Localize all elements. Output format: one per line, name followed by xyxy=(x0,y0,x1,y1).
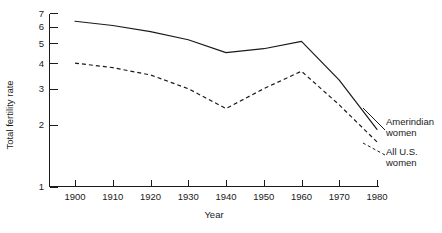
x-tick-label: 1950 xyxy=(253,191,274,202)
x-tick-label: 1920 xyxy=(140,191,161,202)
y-tick-label: 6 xyxy=(39,21,44,32)
y-tick-label: 1 xyxy=(39,181,44,192)
chart-figure: 1234567 19001910192019301940195019601970… xyxy=(0,0,442,233)
annotation-label-all-us-line2: women xyxy=(385,157,417,168)
series-line-all-us-women xyxy=(75,63,377,142)
y-tick-label: 2 xyxy=(39,119,44,130)
series-line-amerindian-women xyxy=(75,21,377,129)
x-tick-label: 1970 xyxy=(329,191,350,202)
x-tick-label: 1980 xyxy=(366,191,387,202)
annotation-label-amerindian-line1: Amerindian xyxy=(386,116,434,127)
y-tick-label: 7 xyxy=(39,8,44,19)
y-axis-tick-labels: 1234567 xyxy=(39,8,44,192)
annotation-leader-amerindian xyxy=(363,108,385,130)
x-tick-label: 1940 xyxy=(215,191,236,202)
annotation-label-all-us-line1: All U.S. xyxy=(386,146,418,157)
y-tick-label: 5 xyxy=(39,38,44,49)
y-tick-label: 4 xyxy=(39,58,44,69)
annotation-label-amerindian-line2: women xyxy=(385,127,417,138)
x-tick-label: 1960 xyxy=(291,191,312,202)
x-tick-label: 1910 xyxy=(102,191,123,202)
annotation-leader-all-us xyxy=(363,143,385,155)
y-axis-title: Total fertility rate xyxy=(4,80,15,149)
x-axis-ticks xyxy=(76,180,378,187)
chart-plot-area: 1234567 19001910192019301940195019601970… xyxy=(0,0,442,233)
x-tick-label: 1900 xyxy=(64,191,85,202)
x-axis-title: Year xyxy=(204,209,223,220)
y-tick-label: 3 xyxy=(39,83,44,94)
x-tick-label: 1930 xyxy=(178,191,199,202)
y-axis-ticks xyxy=(50,14,58,188)
x-axis-tick-labels: 190019101920193019401950196019701980 xyxy=(64,191,387,202)
